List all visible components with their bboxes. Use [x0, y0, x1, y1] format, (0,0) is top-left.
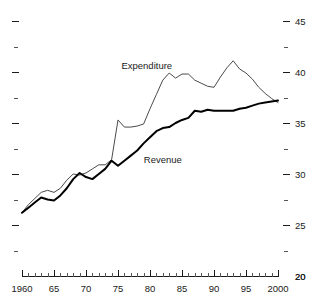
- right-axis-ticks: [283, 22, 290, 252]
- x-tick-label: 85: [177, 283, 188, 294]
- line-chart: 202530354045 1960657075808590952000 20 E…: [0, 0, 320, 308]
- x-tick-label: 2000: [267, 283, 288, 294]
- x-tick-label: 65: [49, 283, 60, 294]
- y-tick-label: 35: [295, 118, 306, 129]
- baseline-value-label: 20: [295, 271, 306, 282]
- series-annotation-revenue: Revenue: [144, 154, 182, 165]
- right-axis-tick-labels: 202530354045: [295, 16, 306, 282]
- x-tick-label: 70: [81, 283, 92, 294]
- y-tick-label: 25: [295, 220, 306, 231]
- series-annotation-expenditure: Expenditure: [121, 60, 172, 71]
- y-tick-label: 40: [295, 67, 306, 78]
- x-tick-label: 1960: [11, 283, 32, 294]
- x-axis-tick-labels: 1960657075808590952000: [11, 283, 288, 294]
- baseline-label: 20: [295, 271, 306, 282]
- left-axis-ticks: [12, 22, 19, 252]
- x-tick-label: 80: [145, 283, 156, 294]
- x-tick-label: 75: [113, 283, 124, 294]
- data-series-group: [22, 61, 278, 213]
- x-axis-ticks: [23, 270, 279, 277]
- y-tick-label: 45: [295, 16, 306, 27]
- x-tick-label: 90: [209, 283, 220, 294]
- x-tick-label: 95: [241, 283, 252, 294]
- chart-container: 202530354045 1960657075808590952000 20 E…: [0, 0, 320, 308]
- y-tick-label: 30: [295, 169, 306, 180]
